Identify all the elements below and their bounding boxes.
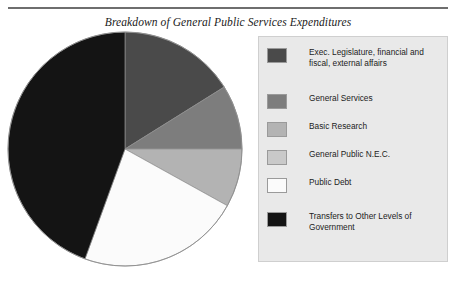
- legend-item[interactable]: General Services: [267, 93, 443, 109]
- legend-item-label: Public Debt: [309, 177, 351, 188]
- legend-swatch: [267, 178, 287, 193]
- legend-swatch: [267, 150, 287, 165]
- legend-item-label: Transfers to Other Levels of Government: [309, 211, 443, 233]
- legend-swatch: [267, 122, 287, 137]
- legend-item-label: Basic Research: [309, 121, 367, 132]
- chart-page: Breakdown of General Public Services Exp…: [0, 0, 456, 290]
- legend-item-label: General Public N.E.C.: [309, 149, 390, 160]
- legend-item-label: Exec. Legislature, financial and fiscal,…: [309, 47, 443, 69]
- legend-item[interactable]: Basic Research: [267, 121, 443, 137]
- legend-item[interactable]: Exec. Legislature, financial and fiscal,…: [267, 47, 443, 69]
- pie-chart: [6, 30, 246, 270]
- legend-swatch: [267, 94, 287, 109]
- page-title: Breakdown of General Public Services Exp…: [0, 16, 456, 28]
- legend-item[interactable]: Transfers to Other Levels of Government: [267, 211, 443, 233]
- legend-item-label: General Services: [309, 93, 373, 104]
- legend-item[interactable]: General Public N.E.C.: [267, 149, 443, 165]
- legend-swatch: [267, 48, 287, 63]
- legend-swatch: [267, 212, 287, 227]
- legend-panel: Exec. Legislature, financial and fiscal,…: [258, 36, 448, 262]
- top-divider: [8, 7, 448, 9]
- legend-item[interactable]: Public Debt: [267, 177, 443, 193]
- pie-chart-svg: [6, 30, 246, 270]
